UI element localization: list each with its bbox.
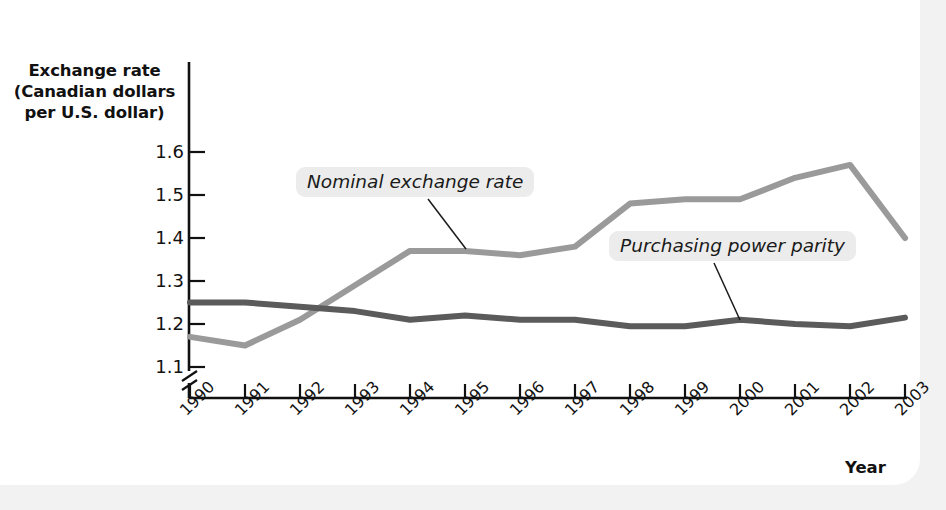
annotation-purchasing-power-parity: Purchasing power parity <box>609 231 856 261</box>
leader-line-ppp <box>714 263 740 320</box>
x-axis-ticks <box>190 384 905 398</box>
axis-break-mark-1 <box>182 371 197 381</box>
annotation-nominal-exchange-rate: Nominal exchange rate <box>296 167 534 197</box>
leader-line-nominal <box>428 199 466 249</box>
chart-figure: Exchange rate (Canadian dollars per U.S.… <box>0 0 946 510</box>
